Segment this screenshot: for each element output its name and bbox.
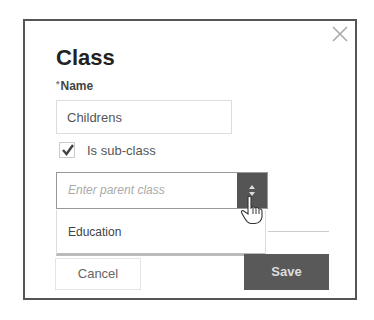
required-marker: * [56, 79, 60, 89]
checkmark-icon [61, 143, 75, 157]
cancel-button[interactable]: Cancel [55, 258, 141, 290]
close-icon[interactable] [331, 25, 349, 43]
parent-class-placeholder: Enter parent class [68, 183, 165, 197]
divider [268, 231, 329, 232]
parent-class-dropdown: Education [56, 210, 266, 256]
parent-class-select[interactable]: Enter parent class [56, 172, 268, 209]
dropdown-option-education[interactable]: Education [68, 225, 121, 239]
name-input[interactable]: Childrens [56, 100, 232, 134]
dialog-title: Class [56, 45, 115, 71]
is-subclass-label: Is sub-class [87, 143, 156, 158]
is-subclass-checkbox[interactable] [59, 142, 75, 158]
hand-cursor-icon [240, 195, 264, 225]
name-label: *Name [56, 79, 93, 93]
save-button[interactable]: Save [244, 254, 329, 290]
